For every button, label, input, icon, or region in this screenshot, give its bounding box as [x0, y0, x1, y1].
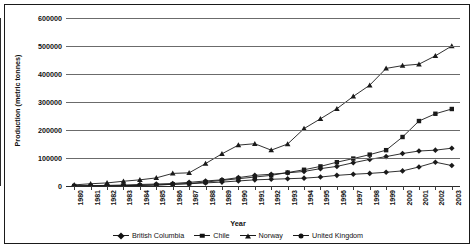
legend-item-united-kingdom[interactable]: United Kingdom — [293, 231, 363, 240]
gridline — [66, 18, 460, 19]
data-point — [433, 159, 439, 165]
gridline — [66, 46, 460, 47]
legend-swatch — [240, 235, 256, 236]
data-point — [203, 161, 209, 166]
x-tick-label: 1998 — [373, 190, 380, 206]
y-tick-label: 500000 — [8, 42, 62, 51]
data-point — [318, 174, 324, 180]
x-tick-label: 1988 — [209, 190, 216, 206]
legend-swatch — [113, 235, 129, 236]
legend-label: British Columbia — [131, 231, 184, 240]
data-point — [350, 160, 356, 166]
data-point — [334, 164, 340, 170]
x-tick-label: 1995 — [323, 190, 330, 206]
data-point — [417, 119, 421, 123]
data-point — [433, 147, 439, 153]
gridline — [66, 158, 460, 159]
diamond-icon — [117, 232, 124, 239]
data-point — [400, 168, 406, 174]
data-point — [449, 145, 455, 151]
data-point — [433, 112, 437, 116]
y-tick-label: 400000 — [8, 70, 62, 79]
legend-item-chile[interactable]: Chile — [194, 231, 229, 240]
x-tick-label: 1991 — [258, 190, 265, 206]
x-tick-label: 2003 — [455, 190, 462, 206]
x-tick-label: 1997 — [356, 190, 363, 206]
legend-swatch — [293, 235, 309, 236]
x-tick-label: 1987 — [192, 190, 199, 206]
x-tick-label: 1985 — [159, 190, 166, 206]
x-tick-label: 2002 — [438, 190, 445, 206]
x-tick-label: 1989 — [225, 190, 232, 206]
gridline — [66, 102, 460, 103]
series-line — [74, 46, 452, 185]
x-tick-label: 1986 — [176, 190, 183, 206]
data-point — [334, 106, 340, 111]
legend-label: United Kingdom — [311, 231, 363, 240]
y-tick-label: 0 — [8, 182, 62, 191]
data-point — [449, 163, 455, 169]
x-tick-label: 1980 — [77, 190, 84, 206]
legend-item-british-columbia[interactable]: British Columbia — [113, 231, 184, 240]
x-tick-label: 2001 — [422, 190, 429, 206]
gridline — [66, 130, 460, 131]
circle-icon — [298, 233, 303, 238]
data-point — [416, 164, 422, 170]
data-point — [350, 94, 356, 99]
data-point — [318, 116, 324, 121]
x-tick-label: 1982 — [110, 190, 117, 206]
series-british-columbia — [71, 159, 454, 186]
data-point — [219, 151, 225, 156]
series-chile — [72, 107, 454, 186]
x-tick-label: 1981 — [94, 190, 101, 206]
data-point — [433, 53, 439, 58]
data-point — [334, 173, 340, 179]
square-icon — [200, 233, 205, 238]
data-point — [367, 171, 373, 177]
data-point — [368, 152, 372, 156]
gridline — [66, 74, 460, 75]
x-tick-label: 1993 — [291, 190, 298, 206]
series-norway — [71, 43, 454, 186]
data-point — [416, 148, 422, 154]
data-point — [450, 107, 454, 111]
plot-area — [66, 18, 460, 186]
y-axis-ticks: 6000005000004000003000002000001000000 — [4, 0, 62, 252]
series-line — [74, 162, 452, 186]
data-point — [301, 175, 307, 181]
x-tick-label: 1994 — [307, 190, 314, 206]
data-point — [384, 148, 388, 152]
legend-label: Norway — [258, 231, 283, 240]
triangle-icon — [245, 233, 251, 238]
data-point — [400, 135, 404, 139]
x-tick-label: 2000 — [406, 190, 413, 206]
data-point — [252, 141, 258, 146]
x-tick-label: 1999 — [389, 190, 396, 206]
data-point — [416, 61, 422, 66]
y-tick-label: 300000 — [8, 98, 62, 107]
x-tick-label: 1992 — [274, 190, 281, 206]
data-point — [350, 171, 356, 177]
y-tick-label: 600000 — [8, 14, 62, 23]
data-point — [285, 176, 291, 182]
x-axis-labels: 1980198119821983198419851986198719881989… — [66, 188, 460, 222]
x-tick-label: 1983 — [126, 190, 133, 206]
x-axis-title: Year — [0, 219, 476, 228]
y-axis-line — [0, 18, 1, 186]
data-point — [400, 151, 406, 157]
legend-label: Chile — [212, 231, 229, 240]
data-point — [383, 169, 389, 175]
legend-item-norway[interactable]: Norway — [240, 231, 283, 240]
chart-legend: British ColumbiaChileNorwayUnited Kingdo… — [0, 231, 476, 240]
x-tick-label: 1990 — [241, 190, 248, 206]
y-tick-label: 100000 — [8, 154, 62, 163]
x-tick-label: 1984 — [143, 190, 150, 206]
y-tick-label: 200000 — [8, 126, 62, 135]
legend-swatch — [194, 235, 210, 236]
x-tick-label: 1996 — [340, 190, 347, 206]
